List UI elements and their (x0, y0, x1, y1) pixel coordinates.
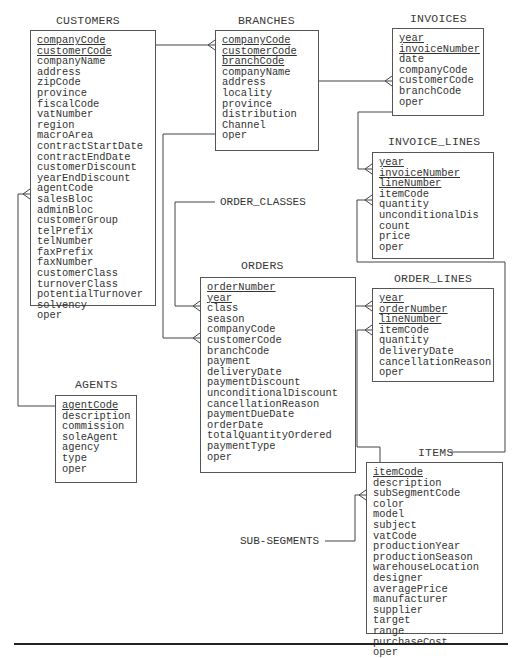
entity-order-lines: yearorderNumberlineNumberitemCodequantit… (372, 288, 494, 382)
field: oper (222, 130, 318, 141)
field-list: yearorderNumberlineNumberitemCodequantit… (379, 293, 493, 378)
field: subject (373, 520, 502, 531)
entity-invoice-lines: yearinvoiceNumberlineNumberitemCodequant… (372, 152, 494, 259)
entity-title-customers: CUSTOMERS (56, 14, 120, 27)
primary-key-field: companyCode (222, 35, 318, 46)
entity-branches: companyCodecustomerCodebranchCodecompany… (215, 30, 319, 151)
external-entity-order-classes: ORDER_CLASSES (220, 196, 306, 208)
field: oper (207, 452, 355, 463)
entity-title-order-lines: ORDER_LINES (394, 272, 472, 285)
field-list: orderNumberyearclassseasoncompanyCodecus… (207, 282, 355, 462)
bottom-divider (14, 643, 508, 645)
field: oper (62, 464, 136, 475)
field-list: companyCodecustomerCodebranchCodecompany… (222, 35, 318, 141)
entity-title-agents: AGENTS (75, 378, 118, 391)
entity-items: itemCodedescriptionsubSegmentCodecolormo… (366, 462, 503, 634)
field: unconditionalDis (379, 210, 493, 221)
primary-key-field: year (399, 33, 483, 44)
field: oper (373, 647, 502, 658)
field: deliveryDate (379, 346, 493, 357)
field: contractStartDate (37, 141, 155, 152)
entity-customers: companyCodecustomerCodecompanyNameaddres… (30, 30, 156, 306)
field-list: itemCodedescriptionsubSegmentCodecolormo… (373, 467, 502, 658)
field-list: agentCodedescriptioncommissionsoleAgenta… (62, 400, 136, 474)
entity-title-invoice-lines: INVOICE_LINES (388, 135, 480, 148)
field: range (373, 626, 502, 637)
primary-key-field: agentCode (62, 400, 136, 411)
field: salesBloc (37, 194, 155, 205)
field-list: yearinvoiceNumberlineNumberitemCodequant… (379, 157, 493, 252)
primary-key-field: companyCode (37, 35, 155, 46)
field: type (62, 453, 136, 464)
primary-key-field: orderNumber (207, 282, 355, 293)
field: designer (373, 573, 502, 584)
field: oper (37, 310, 155, 321)
entity-title-orders: ORDERS (241, 259, 284, 272)
field: unconditionalDiscount (207, 388, 355, 399)
primary-key-field: year (379, 157, 493, 168)
entity-orders: orderNumberyearclassseasoncompanyCodecus… (200, 277, 356, 473)
field: oper (399, 97, 483, 108)
entity-title-invoices: INVOICES (410, 12, 467, 25)
entity-agents: agentCodedescriptioncommissionsoleAgenta… (55, 395, 137, 483)
external-entity-sub-segments: SUB-SEGMENTS (240, 535, 319, 547)
field: customerCode (207, 335, 355, 346)
field: province (37, 88, 155, 99)
primary-key-field: year (379, 293, 493, 304)
primary-key-field: itemCode (373, 467, 502, 478)
entity-title-items: ITEMS (418, 446, 454, 459)
field: branchCode (399, 86, 483, 97)
field-list: companyCodecustomerCodecompanyNameaddres… (37, 35, 155, 321)
entity-title-branches: BRANCHES (238, 14, 295, 27)
field: oper (379, 367, 493, 378)
entity-invoices: yearinvoiceNumberdatecompanyCodecustomer… (392, 28, 484, 116)
field: locality (222, 88, 318, 99)
field-list: yearinvoiceNumberdatecompanyCodecustomer… (399, 33, 483, 107)
field: oper (379, 242, 493, 253)
field: paymentType (207, 441, 355, 452)
